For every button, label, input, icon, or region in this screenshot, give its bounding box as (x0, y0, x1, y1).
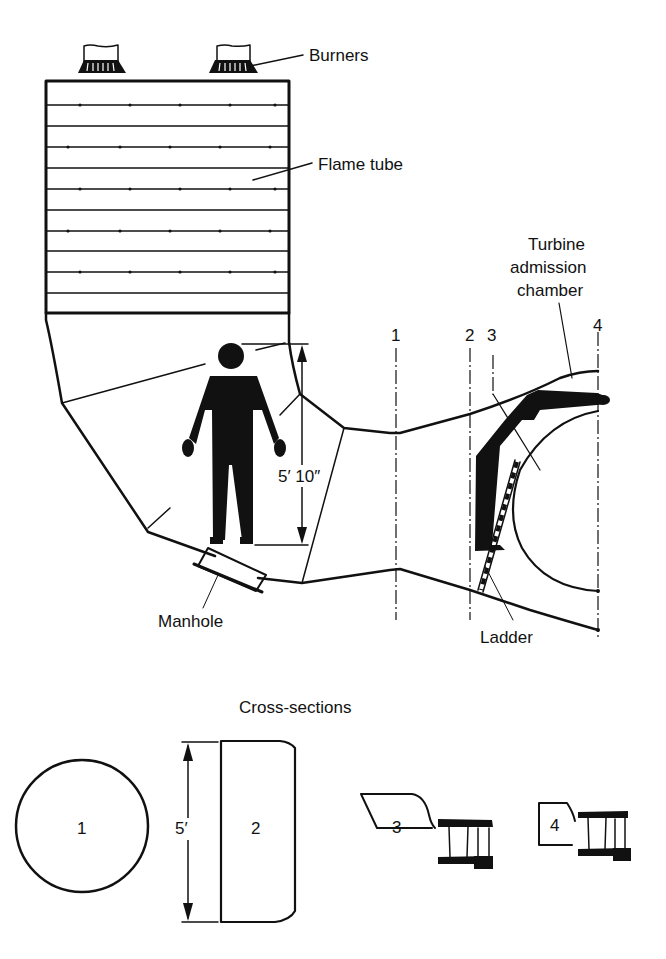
standing-person-icon (182, 343, 286, 544)
manhole (194, 548, 266, 608)
burner-left (78, 45, 126, 73)
burner-right (209, 45, 258, 73)
section-height-label: 5′ (175, 819, 188, 838)
cross-section-3: 3 (361, 794, 493, 869)
svg-text:3: 3 (392, 818, 401, 837)
section-marker-4: 4 (593, 316, 602, 335)
cross-sections-title: Cross-sections (239, 698, 351, 717)
height-label: 5′ 10″ (278, 467, 320, 486)
turbine-label-line3: chamber (517, 281, 583, 300)
ladder-label: Ladder (480, 628, 533, 647)
svg-text:4: 4 (550, 816, 559, 835)
manhole-label: Manhole (158, 612, 223, 631)
flame-tube (46, 81, 289, 313)
svg-text:1: 1 (77, 819, 86, 838)
section-marker-1: 1 (391, 326, 400, 345)
turbine-label-line2: admission (510, 258, 587, 277)
burners-label: Burners (309, 46, 369, 65)
svg-text:2: 2 (251, 819, 260, 838)
section-marker-2: 2 (465, 326, 474, 345)
flame-tube-label: Flame tube (318, 155, 403, 174)
cross-section-2: 5′ 2 (172, 741, 295, 922)
cross-section-4: 4 (539, 803, 631, 861)
section-lines (396, 332, 598, 640)
turbine-label-line1: Turbine (528, 235, 585, 254)
cross-section-1: 1 (16, 760, 148, 892)
section-marker-3: 3 (487, 326, 496, 345)
combustion-chamber-diagram: 5′ 10″ 1 2 3 4 Burners Flame tube Turbin… (0, 0, 666, 959)
